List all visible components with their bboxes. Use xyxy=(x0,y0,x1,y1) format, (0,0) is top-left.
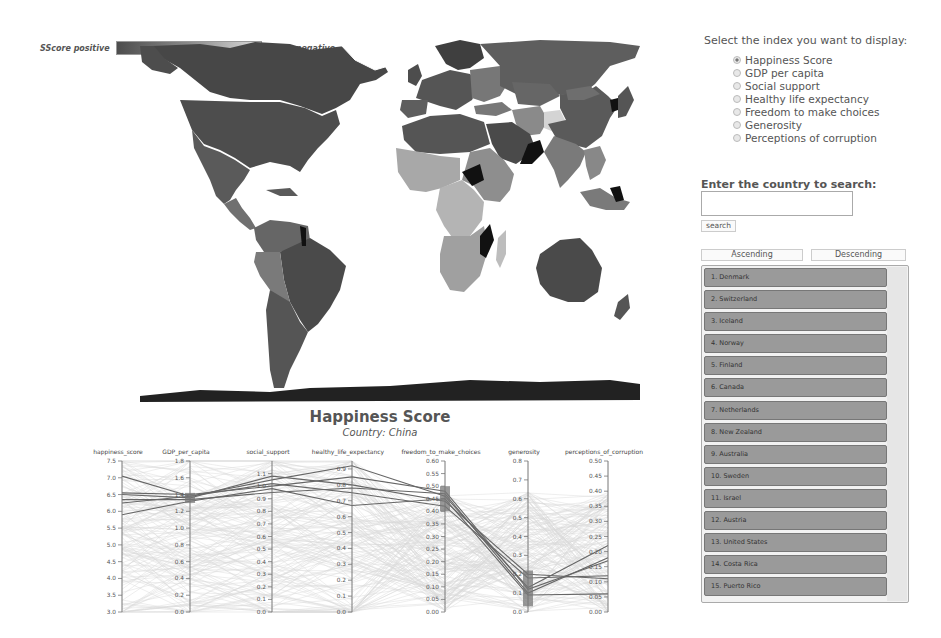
radio-circle-icon[interactable] xyxy=(733,56,741,64)
index-radio-generosity[interactable]: Generosity xyxy=(733,118,934,131)
ranking-list-item[interactable]: 5. Finland xyxy=(704,356,887,375)
brush-selection[interactable] xyxy=(440,486,450,511)
tick-label: 0.30 xyxy=(589,518,602,524)
tick-label: 6.0 xyxy=(107,508,117,514)
world-map[interactable] xyxy=(140,40,640,405)
region-antarctica xyxy=(140,380,640,402)
country-cuba[interactable] xyxy=(266,188,298,196)
radio-circle-icon[interactable] xyxy=(733,121,741,129)
tick-label: 0.4 xyxy=(257,559,267,565)
tick-label: 0.3 xyxy=(513,552,523,558)
index-radio-freedom-to-make-choices[interactable]: Freedom to make choices xyxy=(733,105,934,118)
axis-title: generosity xyxy=(508,448,540,456)
country-search-input[interactable] xyxy=(701,191,853,216)
ranking-list-item[interactable]: 13. United States xyxy=(704,533,887,552)
ranking-list-item[interactable]: 9. Australia xyxy=(704,445,887,464)
axis-happiness-score[interactable]: happiness_score3.03.54.04.55.05.56.06.57… xyxy=(93,448,143,615)
index-prompt: Select the index you want to display: xyxy=(704,34,934,47)
tick-label: 0.45 xyxy=(426,496,439,502)
tick-label: 0.50 xyxy=(426,483,439,489)
tick-label: 0.45 xyxy=(589,473,602,479)
axis-title: happiness_score xyxy=(93,448,143,456)
radio-circle-icon[interactable] xyxy=(733,82,741,90)
tick-label: 0.00 xyxy=(426,609,439,615)
ascending-button[interactable]: Ascending xyxy=(701,249,803,261)
radio-label: Healthy life expectancy xyxy=(745,93,869,105)
tick-label: 3.5 xyxy=(107,592,117,598)
brush-selection[interactable] xyxy=(185,493,195,503)
ranking-list-item[interactable]: 15. Puerto Rico xyxy=(704,577,887,596)
ranking-list-item[interactable]: 1. Denmark xyxy=(704,268,887,287)
axis-title: GDP_per_capita xyxy=(162,448,210,456)
tick-label: 0.8 xyxy=(337,482,347,488)
ranking-list-item[interactable]: 6. Canada xyxy=(704,378,887,397)
ranking-list-item[interactable]: 12. Austria xyxy=(704,511,887,530)
country-australia[interactable] xyxy=(536,238,602,302)
tick-label: 0.40 xyxy=(426,508,439,514)
tick-label: 0.20 xyxy=(589,549,602,555)
radio-circle-icon[interactable] xyxy=(733,95,741,103)
tick-label: 1.0 xyxy=(257,483,267,489)
country-japan[interactable] xyxy=(618,86,634,118)
descending-button[interactable]: Descending xyxy=(811,249,906,261)
index-radio-gdp-per-capita[interactable]: GDP per capita xyxy=(733,66,934,79)
country-madagascar[interactable] xyxy=(496,230,506,268)
ranking-list-item[interactable]: 11. Israel xyxy=(704,489,887,508)
country-iberia[interactable] xyxy=(400,100,428,118)
tick-label: 0.35 xyxy=(589,503,602,509)
search-button[interactable]: search xyxy=(701,220,736,232)
radio-label: GDP per capita xyxy=(745,67,824,79)
country-turkey[interactable] xyxy=(474,102,512,116)
list-scrollbar[interactable] xyxy=(887,267,907,601)
brush-selection[interactable] xyxy=(523,570,533,606)
ranking-list-item[interactable]: 7. Netherlands xyxy=(704,401,887,420)
ranking-list-item[interactable]: 4. Norway xyxy=(704,334,887,353)
ranking-list-item[interactable]: 3. Iceland xyxy=(704,312,887,331)
country-central-america[interactable] xyxy=(224,198,256,230)
index-radio-social-support[interactable]: Social support xyxy=(733,79,934,92)
axis-title: perceptions_of_corruption xyxy=(565,448,643,456)
country-southeast-asia[interactable] xyxy=(584,146,606,180)
tick-label: 1.6 xyxy=(175,475,185,481)
ranking-list-item[interactable]: 2. Switzerland xyxy=(704,290,887,309)
tick-label: 5.0 xyxy=(107,542,117,548)
index-radio-healthy-life-expectancy[interactable]: Healthy life expectancy xyxy=(733,92,934,105)
ranking-list-item[interactable]: 10. Sweden xyxy=(704,467,887,486)
radio-circle-icon[interactable] xyxy=(733,69,741,77)
country-russia[interactable] xyxy=(480,40,640,96)
tick-label: 0.2 xyxy=(513,571,523,577)
chart-title: Happiness Score xyxy=(300,408,460,426)
tick-label: 0.25 xyxy=(426,546,439,552)
ranking-list-item[interactable]: 14. Costa Rica xyxy=(704,555,887,574)
tick-label: 0.00 xyxy=(589,609,602,615)
tick-label: 0.8 xyxy=(257,508,267,514)
tick-label: 5.5 xyxy=(107,525,117,531)
tick-label: 1.4 xyxy=(175,492,185,498)
parallel-coordinates-chart[interactable]: happiness_score3.03.54.04.55.05.56.06.57… xyxy=(60,445,680,620)
tick-label: 0.9 xyxy=(257,496,267,502)
index-radio-perceptions-of-corruption[interactable]: Perceptions of corruption xyxy=(733,131,934,144)
country-north-africa[interactable] xyxy=(402,114,490,154)
tick-label: 1.1 xyxy=(257,471,267,477)
tick-label: 0.8 xyxy=(513,458,523,464)
country-scandinavia[interactable] xyxy=(435,40,484,70)
tick-label: 0.0 xyxy=(175,609,185,615)
ranking-list-item[interactable]: 8. New Zealand xyxy=(704,423,887,442)
tick-label: 7.0 xyxy=(107,475,117,481)
tick-label: 0.25 xyxy=(589,534,602,540)
tick-label: 0.6 xyxy=(337,514,347,520)
tick-label: 6.5 xyxy=(107,492,117,498)
country-new-zealand[interactable] xyxy=(614,294,630,320)
tick-label: 0.20 xyxy=(426,559,439,565)
radio-circle-icon[interactable] xyxy=(733,108,741,116)
index-radio-happiness-score[interactable]: Happiness Score xyxy=(733,53,934,66)
country-uk[interactable] xyxy=(408,64,422,86)
tick-label: 0.10 xyxy=(426,584,439,590)
tick-label: 0.1 xyxy=(337,593,347,599)
tick-label: 0.2 xyxy=(175,592,185,598)
tick-label: 0.15 xyxy=(426,571,439,577)
tick-label: 0.7 xyxy=(257,521,267,527)
background-lines xyxy=(122,461,608,612)
country-ranking-list[interactable]: 1. Denmark2. Switzerland3. Iceland4. Nor… xyxy=(701,265,909,603)
radio-circle-icon[interactable] xyxy=(733,134,741,142)
